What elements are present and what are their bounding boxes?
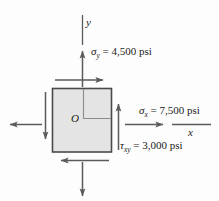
sigma-y-subscript: y xyxy=(96,51,99,60)
sigma-y-unit: psi xyxy=(139,45,152,57)
tau-xy-label: τxy = 3,000 psi xyxy=(120,140,183,154)
stress-element-figure: y x O σy = 4,500 psi σx = 7,500 psi τxy … xyxy=(0,0,219,201)
tau-xy-unit: psi xyxy=(170,139,183,151)
sigma-x-unit: psi xyxy=(187,104,200,116)
tau-xy-subscript: xy xyxy=(124,145,131,154)
sigma-y-label: σy = 4,500 psi xyxy=(91,46,152,60)
tau-xy-value: 3,000 xyxy=(142,139,167,151)
sigma-y-value: 4,500 xyxy=(112,45,137,57)
sigma-y-equals: = xyxy=(103,45,109,57)
sigma-x-equals: = xyxy=(151,104,157,116)
tau-xy-equals: = xyxy=(133,139,139,151)
sigma-x-subscript: x xyxy=(144,110,147,119)
x-axis-label: x xyxy=(188,127,193,138)
sigma-x-value: 7,500 xyxy=(160,104,185,116)
figure-canvas xyxy=(0,0,219,201)
y-axis-label: y xyxy=(86,17,91,28)
origin-label: O xyxy=(71,113,79,124)
stress-element-square xyxy=(53,89,112,153)
sigma-x-label: σx = 7,500 psi xyxy=(139,105,200,119)
